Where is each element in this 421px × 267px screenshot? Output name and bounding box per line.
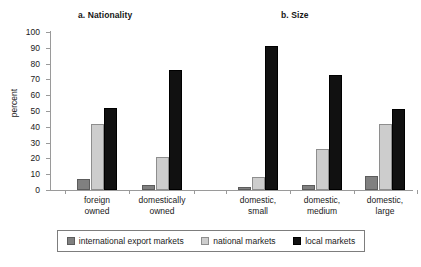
bar bbox=[316, 149, 329, 190]
y-tick-label: 90 bbox=[14, 44, 40, 52]
panel-b-title: b. Size bbox=[281, 10, 309, 20]
legend-item: local markets bbox=[293, 236, 355, 246]
panel-a-title: a. Nationality bbox=[78, 10, 132, 20]
x-tick-mark bbox=[290, 190, 291, 194]
y-tick-label: 30 bbox=[14, 139, 40, 147]
bar bbox=[252, 177, 265, 190]
x-tick-mark bbox=[354, 190, 355, 194]
y-tick-mark bbox=[46, 32, 50, 33]
legend-label: national markets bbox=[213, 236, 275, 246]
bar bbox=[379, 124, 392, 190]
y-tick-label: 70 bbox=[14, 75, 40, 83]
legend-swatch-icon bbox=[67, 237, 75, 245]
category-label: domestic, small bbox=[224, 195, 292, 217]
y-tick-mark bbox=[46, 143, 50, 144]
y-tick-mark bbox=[46, 127, 50, 128]
y-tick-label: 100 bbox=[14, 28, 40, 36]
x-tick-mark bbox=[194, 190, 195, 194]
bar bbox=[329, 75, 342, 190]
x-axis-line bbox=[50, 190, 413, 191]
legend-label: local markets bbox=[305, 236, 355, 246]
y-tick-label: 10 bbox=[14, 170, 40, 178]
category-label: domestic, medium bbox=[288, 195, 356, 217]
bar bbox=[104, 108, 117, 190]
legend-label: international export markets bbox=[79, 236, 184, 246]
legend-item: international export markets bbox=[67, 236, 184, 246]
x-tick-mark bbox=[417, 190, 418, 194]
bar bbox=[265, 46, 278, 190]
y-tick-label: 40 bbox=[14, 123, 40, 131]
chart-legend: international export marketsnational mar… bbox=[57, 230, 365, 252]
bar bbox=[77, 179, 90, 190]
bar bbox=[91, 124, 104, 190]
y-tick-mark bbox=[46, 79, 50, 80]
category-label: domestic, large bbox=[351, 195, 419, 217]
legend-item: national markets bbox=[201, 236, 275, 246]
y-tick-mark bbox=[46, 64, 50, 65]
y-tick-mark bbox=[46, 174, 50, 175]
bar bbox=[365, 176, 378, 190]
y-tick-mark bbox=[46, 48, 50, 49]
legend-swatch-icon bbox=[293, 237, 301, 245]
category-label: foreign owned bbox=[63, 195, 131, 217]
y-tick-label: 60 bbox=[14, 91, 40, 99]
bar bbox=[238, 187, 251, 190]
legend-swatch-icon bbox=[201, 237, 209, 245]
category-label: domestically owned bbox=[128, 195, 196, 217]
bar-chart: a. Nationality b. Size percent 010203040… bbox=[0, 0, 421, 267]
y-tick-mark bbox=[46, 158, 50, 159]
y-tick-label: 80 bbox=[14, 60, 40, 68]
x-tick-mark bbox=[65, 190, 66, 194]
bar bbox=[156, 157, 169, 190]
bar bbox=[392, 109, 405, 190]
y-tick-mark bbox=[46, 190, 50, 191]
y-tick-mark bbox=[46, 111, 50, 112]
bar bbox=[142, 185, 155, 190]
x-tick-mark bbox=[226, 190, 227, 194]
bar bbox=[169, 70, 182, 190]
y-tick-label: 20 bbox=[14, 154, 40, 162]
x-tick-mark bbox=[129, 190, 130, 194]
y-tick-label: 0 bbox=[14, 186, 40, 194]
y-tick-mark bbox=[46, 95, 50, 96]
bar bbox=[302, 185, 315, 190]
y-tick-label: 50 bbox=[14, 107, 40, 115]
